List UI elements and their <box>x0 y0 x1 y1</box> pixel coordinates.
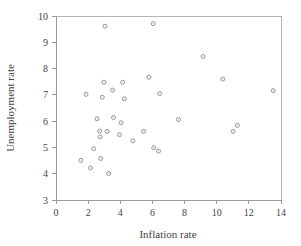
y-tick-label: 6 <box>43 116 48 127</box>
data-point <box>121 80 125 84</box>
x-axis-title: Inflation rate <box>139 228 196 240</box>
data-point-center <box>153 147 154 148</box>
data-point-center <box>112 90 113 91</box>
data-point-center <box>103 82 104 83</box>
data-point <box>111 88 115 92</box>
data-point-center <box>113 117 114 118</box>
data-point <box>103 24 107 28</box>
data-point-center <box>80 160 81 161</box>
data-point <box>122 97 126 101</box>
data-point-center <box>132 140 133 141</box>
x-tick-label: 12 <box>244 207 254 218</box>
plot-frame <box>56 16 281 200</box>
data-point <box>107 171 111 175</box>
data-point-center <box>100 136 101 137</box>
data-point-center <box>119 134 120 135</box>
data-point <box>231 129 235 133</box>
data-point-center <box>107 131 108 132</box>
data-point <box>99 156 103 160</box>
x-tick-label: 8 <box>182 207 187 218</box>
data-point-center <box>273 90 274 91</box>
y-axis: 345678910 <box>38 11 56 206</box>
chart-canvas: 345678910 02468101214 Inflation rate Une… <box>0 0 301 246</box>
data-point-center <box>93 148 94 149</box>
y-tick-label: 5 <box>43 142 48 153</box>
data-point <box>131 139 135 143</box>
x-tick-label: 0 <box>54 207 59 218</box>
data-point-center <box>178 119 179 120</box>
data-point-center <box>85 94 86 95</box>
x-tick-label: 10 <box>212 207 222 218</box>
data-point <box>119 121 123 125</box>
y-tick-label: 9 <box>43 37 48 48</box>
data-point-center <box>143 131 144 132</box>
y-tick-label: 4 <box>43 168 48 179</box>
data-point <box>152 146 156 150</box>
y-tick-label: 7 <box>43 89 48 100</box>
x-tick-label: 2 <box>86 207 91 218</box>
data-point <box>84 92 88 96</box>
data-point-center <box>96 118 97 119</box>
data-point <box>102 80 106 84</box>
data-point-center <box>202 56 203 57</box>
data-point <box>105 129 109 133</box>
data-point-center <box>233 131 234 132</box>
data-point-center <box>104 26 105 27</box>
x-tick-label: 6 <box>150 207 155 218</box>
data-point-center <box>153 23 154 24</box>
data-point-center <box>90 167 91 168</box>
data-point <box>142 129 146 133</box>
data-point <box>98 135 102 139</box>
data-point <box>89 166 93 170</box>
data-point <box>271 89 275 93</box>
y-tick-group: 345678910 <box>38 11 56 206</box>
data-point-center <box>222 78 223 79</box>
data-point <box>157 149 161 153</box>
data-point-center <box>102 97 103 98</box>
data-point-center <box>124 98 125 99</box>
data-point-center <box>148 77 149 78</box>
data-point <box>79 158 83 162</box>
data-point-center <box>120 122 121 123</box>
data-point <box>201 54 205 58</box>
scatter-plot-figure: 345678910 02468101214 Inflation rate Une… <box>0 0 301 246</box>
y-tick-label: 3 <box>43 195 48 206</box>
data-point <box>221 77 225 81</box>
data-point-center <box>122 82 123 83</box>
data-point-center <box>100 158 101 159</box>
x-tick-group: 02468101214 <box>54 200 287 218</box>
data-point <box>176 118 180 122</box>
data-point-center <box>99 131 100 132</box>
y-tick-label: 8 <box>43 63 48 74</box>
data-point <box>117 133 121 137</box>
data-points-layer <box>79 22 275 176</box>
data-point <box>158 92 162 96</box>
x-axis: 02468101214 <box>54 200 287 218</box>
data-point <box>112 115 116 119</box>
x-tick-label: 4 <box>118 207 123 218</box>
data-point <box>92 147 96 151</box>
data-point <box>100 95 104 99</box>
data-point <box>151 22 155 26</box>
y-tick-label: 10 <box>38 11 48 22</box>
data-point <box>95 117 99 121</box>
data-point <box>147 75 151 79</box>
y-axis-title: Unemployment rate <box>4 64 16 152</box>
data-point-center <box>108 173 109 174</box>
data-point-center <box>159 93 160 94</box>
data-point-center <box>158 151 159 152</box>
x-tick-label: 14 <box>276 207 286 218</box>
data-point-center <box>237 125 238 126</box>
data-point <box>235 123 239 127</box>
data-point <box>98 129 102 133</box>
